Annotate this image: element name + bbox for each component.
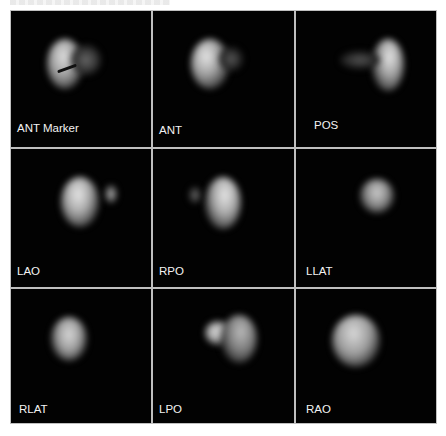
panel-llat: LLAT	[296, 149, 436, 287]
organ-uptake	[51, 317, 87, 361]
view-label: LAO	[17, 265, 40, 277]
organ-uptake-secondary	[340, 51, 380, 69]
cropped-caption-text	[10, 0, 170, 5]
panel-rlat: RLAT	[11, 289, 151, 423]
panel-ant: ANT	[153, 11, 294, 147]
view-label: RLAT	[19, 403, 48, 415]
organ-uptake	[332, 315, 380, 367]
organ-uptake	[360, 179, 394, 213]
organ-uptake-secondary	[71, 45, 101, 75]
panel-lpo: LPO	[153, 289, 294, 423]
panel-pos: POS	[296, 11, 436, 147]
panel-ant-marker: ANT Marker	[11, 11, 151, 147]
view-label: ANT	[159, 124, 182, 136]
view-label: LLAT	[306, 265, 333, 277]
organ-uptake	[372, 39, 404, 91]
organ-uptake	[205, 177, 241, 229]
scan-view-grid: ANT Marker ANT POS LAO RPO LLAT RLAT LPO	[10, 10, 437, 424]
view-label: LPO	[159, 403, 182, 415]
organ-uptake	[61, 177, 99, 227]
spleen-uptake	[105, 185, 117, 203]
organ-uptake-secondary	[219, 47, 243, 71]
view-label: RAO	[306, 403, 331, 415]
panel-rpo: RPO	[153, 149, 294, 287]
view-label: RPO	[159, 265, 184, 277]
panel-rao: RAO	[296, 289, 436, 423]
organ-uptake	[221, 315, 257, 363]
spleen-uptake	[189, 187, 201, 203]
panel-lao: LAO	[11, 149, 151, 287]
view-label: POS	[314, 119, 338, 131]
view-label: ANT Marker	[17, 122, 79, 134]
